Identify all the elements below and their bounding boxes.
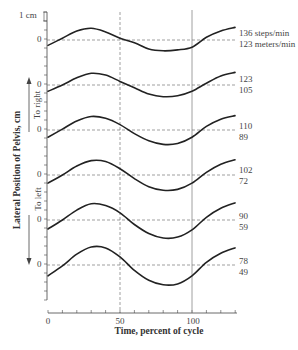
series-label-5a: 78 bbox=[239, 256, 248, 266]
arrow-up-icon bbox=[27, 77, 32, 84]
zero-label-3: 0 bbox=[37, 169, 42, 179]
series-label-2a: 110 bbox=[239, 121, 252, 131]
series-curve-3 bbox=[48, 160, 235, 191]
series-curve-5 bbox=[48, 246, 235, 285]
series-curve-1 bbox=[48, 72, 235, 96]
zero-label-2: 0 bbox=[37, 124, 42, 134]
series-label-0a: 136 steps/min bbox=[239, 28, 289, 38]
series-curve-2 bbox=[48, 116, 235, 145]
y-axis-label: Lateral Position of Pelvis, cm bbox=[12, 100, 22, 240]
x-axis-label: Time, percent of cycle bbox=[0, 326, 298, 336]
x-tick-label-100: 100 bbox=[186, 316, 200, 326]
series-label-4b: 59 bbox=[239, 222, 248, 232]
series-curve-4 bbox=[48, 203, 235, 238]
zero-label-4: 0 bbox=[37, 214, 42, 224]
zero-label-1: 0 bbox=[37, 79, 42, 89]
zero-lines bbox=[47, 40, 237, 265]
series-label-4a: 90 bbox=[239, 211, 248, 221]
series-label-3a: 102 bbox=[239, 165, 253, 175]
direction-label-right: To right bbox=[32, 91, 42, 120]
series-curve-0 bbox=[48, 27, 235, 50]
series-label-1b: 105 bbox=[239, 85, 253, 95]
series-label-5b: 49 bbox=[239, 267, 248, 277]
direction-label-left: To left bbox=[33, 187, 43, 211]
zero-label-0: 0 bbox=[37, 34, 42, 44]
scale-label: 1 cm bbox=[19, 10, 37, 20]
scale-bar bbox=[43, 12, 47, 21]
zero-label-5: 0 bbox=[37, 259, 42, 269]
y-axis-ticks bbox=[44, 12, 47, 300]
x-tick-label-0: 0 bbox=[46, 316, 51, 326]
x-tick-label-50: 50 bbox=[116, 316, 125, 326]
series-label-1a: 123 bbox=[239, 74, 253, 84]
chart-plot bbox=[0, 0, 298, 350]
series-label-3b: 72 bbox=[239, 176, 248, 186]
arrow-down-icon bbox=[27, 258, 32, 265]
series-curves bbox=[48, 27, 235, 285]
x-axis-ticks bbox=[48, 310, 235, 313]
series-label-2b: 89 bbox=[239, 132, 248, 142]
series-label-0b: 123 meters/min bbox=[239, 39, 295, 49]
